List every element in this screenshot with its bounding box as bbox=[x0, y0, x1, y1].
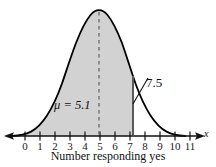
figure-caption: Number responding yes bbox=[0, 149, 216, 163]
mean-annotation-label: μ = 5.1 bbox=[54, 99, 91, 112]
x-axis-variable-label: x bbox=[204, 128, 208, 139]
normal-distribution-figure: 0 1 2 3 4 5 6 7 8 9 10 11 μ = 5.1 7.5 x … bbox=[0, 0, 216, 167]
boundary-annotation-label: 7.5 bbox=[146, 76, 162, 90]
shaded-area-under-curve bbox=[12, 10, 133, 136]
